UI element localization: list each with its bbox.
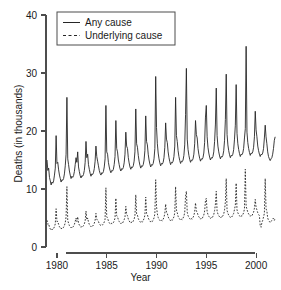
y-axis: 010203040 <box>26 10 46 253</box>
x-axis: 19801985199019952000 <box>46 253 268 271</box>
y-tick-label: 40 <box>26 10 38 21</box>
y-tick-group: 010203040 <box>26 10 46 253</box>
y-axis-label: Deaths (in thousands) <box>13 64 24 204</box>
x-tick-label: 2000 <box>245 260 268 271</box>
series-line-any-cause <box>47 46 275 185</box>
chart-figure: 010203040 19801985199019952000 Any cause… <box>0 0 281 290</box>
series-group <box>47 46 275 230</box>
x-axis-label: Year <box>0 272 281 283</box>
x-tick-label: 1990 <box>145 260 168 271</box>
deaths-line-chart: 010203040 19801985199019952000 Any cause… <box>0 0 281 290</box>
x-tick-group: 19801985199019952000 <box>46 253 268 271</box>
legend-label-underlying-cause: Underlying cause <box>85 30 163 41</box>
x-tick-label: 1995 <box>195 260 218 271</box>
legend-label-any-cause: Any cause <box>85 17 132 28</box>
x-tick-label: 1980 <box>46 260 69 271</box>
y-tick-label: 20 <box>26 126 38 137</box>
y-tick-label: 10 <box>26 184 38 195</box>
y-tick-label: 0 <box>31 242 37 253</box>
x-tick-label: 1985 <box>96 260 119 271</box>
chart-legend: Any cause Underlying cause <box>57 12 175 45</box>
y-tick-label: 30 <box>26 68 38 79</box>
